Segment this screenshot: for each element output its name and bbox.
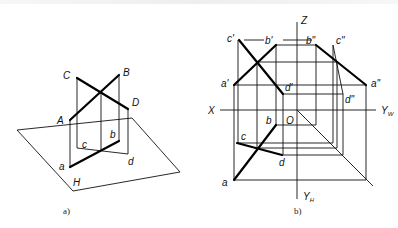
figure-a: C B A D b c a d H a) bbox=[17, 67, 180, 216]
axis-label-x: X bbox=[207, 105, 215, 116]
axis-label-yh: YH bbox=[303, 191, 315, 203]
line-c2d2 bbox=[333, 45, 343, 94]
caption-a: a) bbox=[63, 206, 70, 216]
label-c1: c' bbox=[227, 33, 235, 44]
label-d: d bbox=[128, 156, 134, 167]
label-a2: a" bbox=[371, 78, 381, 89]
label-a: a bbox=[59, 161, 65, 172]
line-b2a2 bbox=[316, 45, 366, 85]
label-b-top: b bbox=[266, 115, 272, 126]
diagram-canvas: C B A D b c a d H a) bbox=[0, 0, 398, 228]
axis-label-z: Z bbox=[300, 15, 308, 26]
line-CD bbox=[77, 78, 128, 109]
label-b2: b" bbox=[306, 35, 316, 46]
label-A: A bbox=[56, 115, 64, 126]
label-a1: a' bbox=[221, 78, 230, 89]
label-d-top: d bbox=[279, 157, 285, 168]
label-C: C bbox=[63, 70, 71, 81]
caption-b: b) bbox=[294, 206, 302, 216]
label-b1: b' bbox=[265, 35, 274, 46]
figure-b: Z X O YW YH c' b' a' d' b" c" a" d" b c … bbox=[207, 15, 395, 216]
label-c2: c" bbox=[336, 35, 345, 46]
label-b: b bbox=[110, 129, 116, 140]
label-D: D bbox=[132, 97, 139, 108]
label-c: c bbox=[82, 139, 87, 150]
label-H: H bbox=[73, 177, 81, 188]
plane-h bbox=[17, 118, 180, 191]
label-c-top: c bbox=[241, 131, 246, 142]
axis-label-o: O bbox=[286, 115, 294, 126]
label-d1: d' bbox=[285, 82, 294, 93]
label-a-top: a bbox=[222, 177, 228, 188]
label-B: B bbox=[123, 67, 130, 78]
axis-label-yw: YW bbox=[381, 105, 395, 117]
label-d2: d" bbox=[345, 94, 355, 105]
